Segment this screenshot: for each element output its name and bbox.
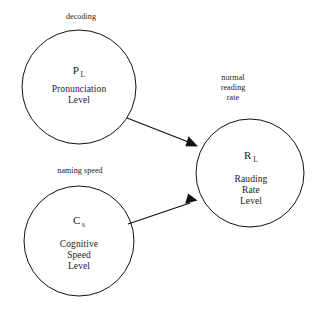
node-label-line-cs-2: Speed <box>24 250 134 261</box>
node-symbol-cognitive-speed-level: Cs <box>24 214 134 227</box>
edge-label-normal-line-1: normal <box>196 73 270 83</box>
edge-label-normal-reading-rate: normal reading rate <box>196 73 270 102</box>
edge-label-normal-line-3: rate <box>196 93 270 103</box>
diagram-canvas: PL Pronunciation Level Cs Cognitive Spee… <box>0 0 321 319</box>
edge-label-normal-line-2: reading <box>196 83 270 93</box>
edge-line-pl-to-rl <box>127 118 191 143</box>
node-label-cognitive-speed-level: Cognitive Speed Level <box>24 239 134 273</box>
node-symbol-rauding-rate-level: RL <box>196 149 306 162</box>
node-symbol-subscript-cs: s <box>80 220 85 229</box>
node-label-rauding-rate-level: Rauding Rate Level <box>196 174 306 208</box>
node-circle-rauding-rate-level[interactable] <box>196 119 304 227</box>
node-label-pronunciation-level: Pronunciation Level <box>24 84 134 106</box>
node-symbol-subscript-rl: L <box>252 155 258 164</box>
node-label-line-cs-1: Cognitive <box>24 239 134 250</box>
edge-label-decoding: decoding <box>36 12 126 22</box>
node-symbol-pronunciation-level: PL <box>24 64 134 77</box>
edge-line-cs-to-rl <box>128 203 190 224</box>
edge-label-naming-speed: naming speed <box>32 166 128 176</box>
node-label-line-pl-1: Pronunciation <box>24 84 134 95</box>
edge-arrowhead-pl-to-rl <box>185 136 198 146</box>
node-symbol-base-rl: R <box>244 149 252 161</box>
node-label-line-cs-3: Level <box>24 261 134 272</box>
node-label-line-rl-1: Rauding <box>196 174 306 185</box>
node-symbol-subscript-pl: L <box>79 70 85 79</box>
node-label-line-rl-2: Rate <box>196 185 306 196</box>
node-label-line-pl-2: Level <box>24 95 134 106</box>
node-label-line-rl-3: Level <box>196 196 306 207</box>
